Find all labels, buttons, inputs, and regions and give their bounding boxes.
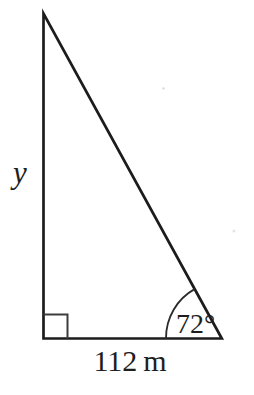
right-angle-marker <box>44 315 68 339</box>
triangle-figure: y 72° 112 m <box>0 0 254 395</box>
angle-label: 72° <box>176 308 215 339</box>
base-length-label: 112 m <box>93 344 166 377</box>
speck-artifact <box>233 230 236 233</box>
vertical-side-label: y <box>10 155 27 190</box>
speck-artifact <box>162 87 164 89</box>
triangle-diagram-canvas: y 72° 112 m <box>0 0 254 395</box>
